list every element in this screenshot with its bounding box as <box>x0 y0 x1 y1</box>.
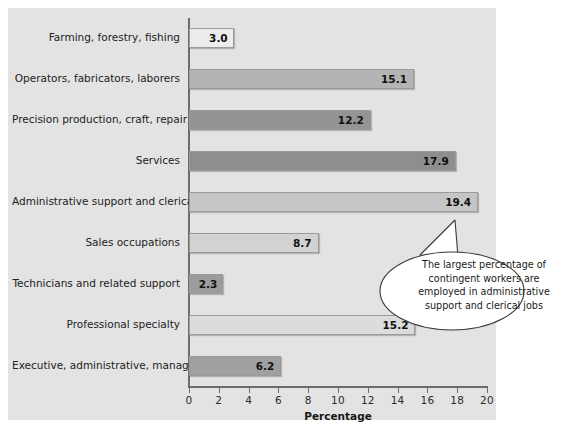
x-tick-12 <box>368 388 369 393</box>
x-tick-label-14: 14 <box>383 394 413 406</box>
callout-tail <box>420 220 458 257</box>
bar-value-label: 8.7 <box>293 237 312 249</box>
bar-value-label: 15.1 <box>381 73 407 85</box>
x-tick-20 <box>487 388 488 393</box>
x-tick-14 <box>398 388 399 393</box>
x-tick-label-10: 10 <box>323 394 353 406</box>
x-tick-label-12: 12 <box>353 394 383 406</box>
callout-text-line: support and clerical jobs <box>414 299 554 313</box>
category-label: Technicians and related support <box>12 277 180 289</box>
bar: 15.1 <box>189 69 414 89</box>
bar: 3.0 <box>189 28 234 48</box>
category-label: Services <box>12 154 180 166</box>
callout-text: The largest percentage ofcontingent work… <box>414 258 554 312</box>
x-tick-18 <box>457 388 458 393</box>
x-tick-4 <box>249 388 250 393</box>
x-tick-8 <box>308 388 309 393</box>
category-label: Precision production, craft, repair <box>12 113 180 125</box>
callout-text-line: employed in administrative <box>414 285 554 299</box>
x-tick-label-20: 20 <box>472 394 502 406</box>
bar-value-label: 6.2 <box>256 360 275 372</box>
bar-value-label: 3.0 <box>209 32 228 44</box>
category-label: Professional specialty <box>12 318 180 330</box>
x-tick-label-2: 2 <box>204 394 234 406</box>
x-tick-label-0: 0 <box>174 394 204 406</box>
callout-text-line: The largest percentage of <box>414 258 554 272</box>
category-label: Sales occupations <box>12 236 180 248</box>
x-tick-2 <box>219 388 220 393</box>
x-tick-0 <box>189 388 190 393</box>
bar: 12.2 <box>189 110 371 130</box>
x-tick-label-6: 6 <box>263 394 293 406</box>
x-tick-label-4: 4 <box>234 394 264 406</box>
bar: 8.7 <box>189 233 319 253</box>
bar-value-label: 17.9 <box>423 155 449 167</box>
bar: 2.3 <box>189 274 223 294</box>
x-tick-16 <box>427 388 428 393</box>
x-axis-title: Percentage <box>188 410 488 422</box>
bar: 6.2 <box>189 356 281 376</box>
x-tick-label-8: 8 <box>293 394 323 406</box>
bar-value-label: 12.2 <box>338 114 364 126</box>
x-tick-6 <box>278 388 279 393</box>
category-label: Farming, forestry, fishing <box>12 31 180 43</box>
x-tick-label-16: 16 <box>412 394 442 406</box>
category-label: Administrative support and clerical <box>12 195 180 207</box>
category-label: Executive, administrative, managerial <box>12 359 180 371</box>
callout-text-line: contingent workers are <box>414 272 554 286</box>
bar: 17.9 <box>189 151 456 171</box>
category-label: Operators, fabricators, laborers <box>12 72 180 84</box>
x-tick-label-18: 18 <box>442 394 472 406</box>
chart-figure: 02468101214161820 Percentage Farming, fo… <box>0 0 565 443</box>
bar-value-label: 2.3 <box>199 278 218 290</box>
x-tick-10 <box>338 388 339 393</box>
